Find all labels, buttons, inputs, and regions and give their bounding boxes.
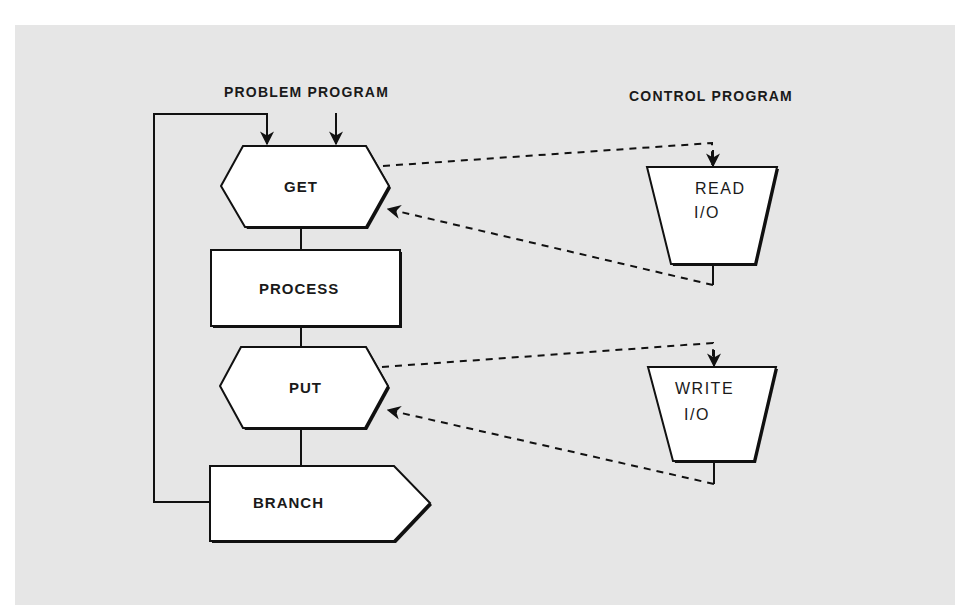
flowchart — [0, 0, 980, 605]
get-label: GET — [284, 178, 318, 195]
read-label: READ — [695, 180, 745, 198]
process-label: PROCESS — [259, 280, 339, 297]
write-label: WRITE — [675, 380, 734, 398]
read-io-label: I/O — [694, 204, 720, 222]
control-program-heading: CONTROL PROGRAM — [629, 88, 793, 104]
get-to-read-link — [383, 143, 713, 166]
write-io-label: I/O — [684, 406, 710, 424]
problem-program-heading: PROBLEM PROGRAM — [224, 84, 389, 100]
put-label: PUT — [289, 379, 322, 396]
branch-label: BRANCH — [253, 494, 324, 511]
put-to-write-link — [382, 343, 714, 367]
